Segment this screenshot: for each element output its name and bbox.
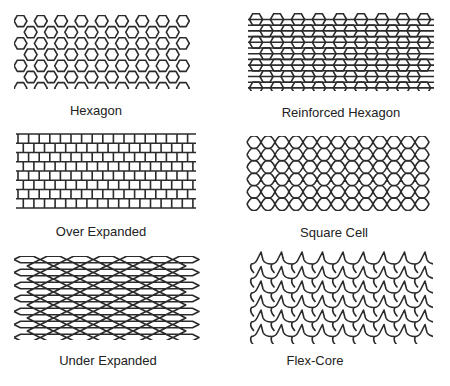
hexagon-label: Hexagon xyxy=(70,103,122,118)
under-expanded-pattern xyxy=(14,256,204,340)
reinforced-hexagon-pattern xyxy=(246,13,436,91)
flex-core-pattern xyxy=(249,251,433,344)
over-expanded-label: Over Expanded xyxy=(56,224,146,239)
under-expanded-label: Under Expanded xyxy=(59,353,157,368)
hexagon-pattern xyxy=(14,15,198,89)
over-expanded-pattern xyxy=(16,132,198,210)
square-cell-label: Square Cell xyxy=(300,225,368,240)
square-cell-pattern xyxy=(246,136,432,211)
flex-core-label: Flex-Core xyxy=(286,353,343,368)
reinforced-hexagon-label: Reinforced Hexagon xyxy=(282,105,401,120)
